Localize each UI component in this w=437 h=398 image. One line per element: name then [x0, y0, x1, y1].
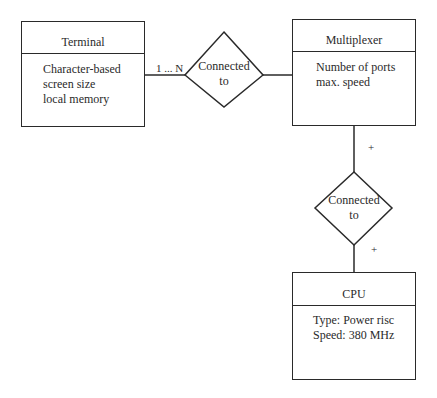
- relationship-label-multiplexer-cpu: Connected to: [319, 193, 389, 223]
- entity-cpu-header: CPU: [293, 273, 415, 306]
- cardinality-label-top-plus: +: [368, 141, 374, 153]
- cardinality-label-bottom-plus: +: [371, 243, 377, 255]
- attribute: max. speed: [316, 75, 395, 90]
- entity-multiplexer-title: Multiplexer: [293, 33, 415, 48]
- entity-multiplexer-attributes: Number of ports max. speed: [316, 60, 395, 90]
- relationship-label-line1: Connected: [189, 59, 259, 74]
- entity-terminal-attributes: Character-based screen size local memory: [43, 62, 121, 107]
- relationship-label-line1: Connected: [319, 193, 389, 208]
- entity-cpu[interactable]: CPU Type: Power risc Speed: 380 MHz: [292, 272, 416, 380]
- cardinality-label-1-n: 1 ... N: [156, 62, 183, 74]
- entity-multiplexer-header: Multiplexer: [293, 20, 415, 52]
- relationship-label-line2: to: [189, 74, 259, 89]
- attribute: Number of ports: [316, 60, 395, 75]
- relationship-label-line2: to: [319, 208, 389, 223]
- entity-cpu-attributes: Type: Power risc Speed: 380 MHz: [313, 313, 394, 343]
- attribute: Type: Power risc: [313, 313, 394, 328]
- entity-multiplexer[interactable]: Multiplexer Number of ports max. speed: [292, 19, 416, 126]
- attribute: Character-based: [43, 62, 121, 77]
- relationship-label-terminal-multiplexer: Connected to: [189, 59, 259, 89]
- entity-terminal-title: Terminal: [22, 35, 144, 50]
- attribute: local memory: [43, 92, 121, 107]
- entity-cpu-title: CPU: [293, 287, 415, 302]
- entity-terminal[interactable]: Terminal Character-based screen size loc…: [21, 21, 145, 127]
- entity-terminal-header: Terminal: [22, 22, 144, 54]
- attribute: screen size: [43, 77, 121, 92]
- attribute: Speed: 380 MHz: [313, 328, 394, 343]
